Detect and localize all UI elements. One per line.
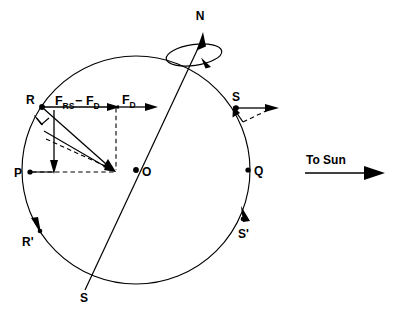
point-r-prime-dot [38, 229, 43, 234]
label-north-pole: N [196, 9, 205, 23]
label-point-r-prime: R' [22, 235, 34, 249]
point-o-dot [133, 167, 139, 173]
right-angle-marker-tick [37, 118, 43, 125]
label-point-s-upper: S [232, 90, 240, 104]
label-to-sun: To Sun [306, 153, 346, 167]
label-center-o: O [142, 165, 151, 179]
spin-ellipse [165, 41, 223, 70]
label-force-resultant-subscript: RS [63, 101, 75, 111]
figure-root: N S O P Q R R' S S' F RS − F D F D T [0, 0, 395, 320]
force-junction-dot [116, 105, 120, 109]
label-point-p: P [14, 166, 22, 180]
spin-direction-arrowhead [201, 58, 211, 69]
label-force-resultant-operator: − [75, 94, 82, 108]
sun-arrow-head [364, 166, 385, 180]
point-q-dot [245, 167, 250, 172]
label-point-s-prime: S' [238, 227, 249, 241]
orbital-force-diagram: N S O P Q R R' S S' F RS − F D F D T [0, 0, 395, 320]
s-dashed-resultant [243, 110, 268, 122]
label-force-resultant-second-subscript: D [94, 101, 100, 111]
label-force-resultant: F RS − F D [55, 94, 100, 111]
label-south-pole: S [80, 291, 88, 305]
label-force-drag-subscript: D [130, 100, 136, 110]
right-angle-marker [35, 116, 50, 125]
force-drag-arrowhead [145, 103, 158, 111]
label-point-q: Q [254, 164, 263, 178]
label-point-r: R [26, 93, 35, 107]
point-s-prime-dot [241, 217, 246, 222]
